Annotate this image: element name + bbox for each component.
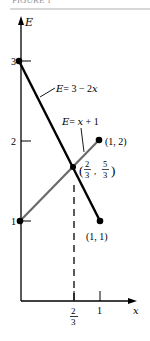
frac2-num: 5: [103, 159, 107, 169]
x-tick-label-1: 1: [97, 305, 102, 316]
label-e-3-minus-2x: E= 3 − 2x: [55, 83, 98, 94]
leader-e-x-plus-1: [81, 128, 84, 152]
point-intersection: [70, 164, 76, 170]
point-1-2: [96, 137, 103, 144]
x-tick-label-two-thirds-den: 3: [71, 317, 76, 327]
leader-e-3-minus-2x: [40, 88, 55, 97]
y-tick-label-3: 3: [11, 56, 16, 67]
point-0-1: [17, 218, 24, 225]
y-tick-label-2: 2: [11, 136, 16, 147]
frac1-num: 2: [85, 159, 89, 169]
annotation-1-2: (1, 2): [105, 136, 127, 148]
x-axis-arrow-icon: [128, 298, 137, 304]
chart-svg: FIGURE 1 E x 1 2 3 2 3 1: [0, 0, 150, 341]
point-1-1: [97, 218, 104, 225]
x-axis-label: x: [133, 305, 139, 316]
y-axis-arrow-icon: [18, 16, 24, 25]
y-axis-label: E: [24, 16, 33, 29]
paren-open: (: [79, 163, 83, 178]
line-e-x-plus-1: [20, 140, 99, 221]
paren-close: ): [111, 163, 115, 178]
annotation-intersection: ( 2 3 , 5 3 ): [79, 159, 115, 180]
x-tick-label-two-thirds-num: 2: [71, 306, 76, 316]
figure-caption: FIGURE 1: [12, 0, 51, 5]
figure: FIGURE 1 E x 1 2 3 2 3 1: [0, 0, 150, 341]
label-e-x-plus-1: E= x + 1: [61, 116, 99, 127]
y-tick-label-1: 1: [11, 216, 16, 227]
frac2-den: 3: [103, 170, 107, 180]
point-0-3: [16, 58, 23, 65]
comma: ,: [94, 166, 96, 176]
annotation-1-1: (1, 1): [86, 231, 108, 243]
frac1-den: 3: [85, 170, 89, 180]
